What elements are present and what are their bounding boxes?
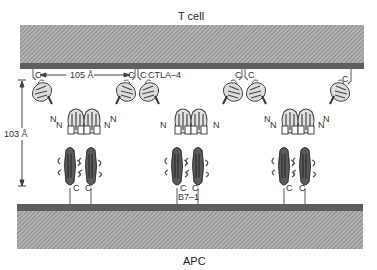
c-terminus-label: C: [299, 184, 306, 193]
c-terminus-label: C: [73, 184, 80, 193]
n-terminus-label: N: [323, 115, 330, 124]
t-cell-hatch: [20, 25, 364, 63]
vertical-distance-label: 103 Å: [4, 130, 28, 139]
t-cell-label: T cell: [178, 11, 204, 22]
c-terminus-label: C: [128, 71, 135, 80]
c-terminus-label: C: [342, 75, 349, 84]
n-terminus-label: N: [270, 121, 277, 130]
c-terminus-label: C: [248, 71, 255, 80]
t-cell-membrane-bar: [20, 63, 364, 69]
b7-1-label: B7–1: [178, 193, 199, 202]
c-terminus-label: C: [286, 184, 293, 193]
c-terminus-label: C: [140, 71, 147, 80]
diagram-canvas: [0, 0, 377, 270]
c-terminus-label: C: [192, 184, 199, 193]
apc-label: APC: [183, 256, 206, 267]
apc-membrane-bar: [17, 204, 363, 211]
c-terminus-label: C: [35, 71, 42, 80]
n-terminus-label: N: [160, 121, 167, 130]
apc-hatch: [17, 211, 363, 249]
n-terminus-label: N: [56, 121, 63, 130]
c-terminus-label: C: [235, 71, 242, 80]
c-terminus-label: C: [85, 184, 92, 193]
complex-2: [139, 80, 242, 185]
c-terminus-label: C: [180, 184, 187, 193]
n-terminus-label: N: [110, 115, 117, 124]
complex-1: [32, 80, 135, 185]
ctla4-label: CTLA–4: [148, 71, 181, 80]
horizontal-distance-label: 105 Å: [70, 71, 94, 80]
n-terminus-label: N: [213, 121, 220, 130]
complex-3: [246, 80, 349, 185]
